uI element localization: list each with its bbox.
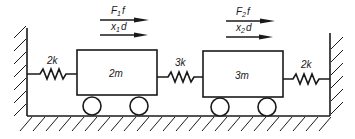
left-wall-hatch-line <box>14 65 26 77</box>
floor-hatch-line <box>72 117 84 131</box>
right-wall-hatch-line <box>331 76 343 88</box>
spring-middle <box>157 72 203 82</box>
displacement-1-label: x1d <box>110 21 127 33</box>
right-wall-hatch-line <box>331 63 343 75</box>
left-wall-hatch-line <box>14 39 26 51</box>
floor-hatch-line <box>150 117 162 131</box>
spring-right-label: 2k <box>300 59 313 70</box>
floor-hatch-line <box>241 117 253 131</box>
floor-hatch-line <box>215 117 227 131</box>
mass-2-label: 3m <box>235 70 249 81</box>
mass-2-wheel-right <box>258 98 276 116</box>
right-wall-hatch-line <box>331 37 343 49</box>
floor-hatch-line <box>254 117 266 131</box>
floor-hatch-line <box>163 117 175 131</box>
floor-hatch-line <box>137 117 149 131</box>
spring-right <box>283 74 330 84</box>
spring-left-label: 2k <box>46 55 59 66</box>
spring-mass-diagram: 2k 3k 2k 2m 3m F1f x1d F2f x2d <box>0 0 355 139</box>
floor-hatch-line <box>306 117 318 131</box>
spring-left <box>27 69 77 79</box>
floor-hatch-line <box>124 117 136 131</box>
floor-hatch-line <box>176 117 188 131</box>
left-wall-hatch-line <box>14 52 26 64</box>
floor-hatch-line <box>85 117 97 131</box>
floor-hatch-line <box>111 117 123 131</box>
floor-hatch-line <box>59 117 71 131</box>
displacement-1-arrowhead <box>134 33 148 38</box>
floor-hatch-line <box>98 117 110 131</box>
floor-hatch-line <box>20 117 32 131</box>
mass-1-label: 2m <box>108 68 123 79</box>
left-wall-hatch-line <box>14 91 26 103</box>
floor-hatch-line <box>319 117 331 131</box>
right-wall-hatch-line <box>331 50 343 62</box>
spring-middle-label: 3k <box>175 57 187 68</box>
floor-hatch-line <box>202 117 214 131</box>
displacement-2-arrowhead <box>259 35 273 40</box>
mass-2-annotations: F2f x2d <box>226 6 275 40</box>
left-wall-hatch-line <box>14 26 26 38</box>
right-wall-hatch-line <box>331 89 343 101</box>
left-wall-hatch-line <box>14 78 26 90</box>
force-2-arrowhead <box>260 19 275 24</box>
mass-1-wheel-left <box>83 97 101 115</box>
mass-1-wheel-right <box>130 97 148 115</box>
floor-hatch-line <box>293 117 305 131</box>
floor-hatch-line <box>189 117 201 131</box>
left-wall-hatch-line <box>14 104 26 116</box>
floor-hatch-line <box>267 117 279 131</box>
floor-hatch-line <box>228 117 240 131</box>
mass-1: 2m <box>77 50 157 115</box>
mass-2-wheel-left <box>211 98 229 116</box>
floor-hatch-line <box>33 117 45 131</box>
force-1-label: F1f <box>111 5 126 17</box>
mass-2: 3m <box>203 51 283 116</box>
floor-hatch-line <box>280 117 292 131</box>
force-1-arrowhead <box>134 18 149 23</box>
displacement-2-label: x2d <box>235 22 252 34</box>
floor-hatch-line <box>46 117 58 131</box>
mass-1-annotations: F1f x1d <box>100 5 149 38</box>
force-2-label: F2f <box>236 6 251 18</box>
right-wall-hatch-line <box>331 102 343 114</box>
